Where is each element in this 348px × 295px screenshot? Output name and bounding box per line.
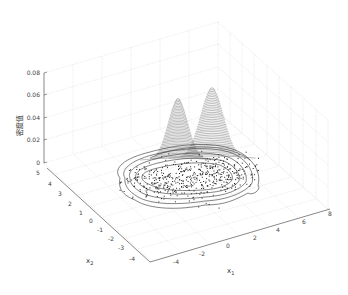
x1-tick-label: 8 <box>328 210 332 217</box>
x2-tick-label: 3 <box>58 190 62 197</box>
x2-tick-label: 2 <box>68 200 72 207</box>
z-tick-label: 0.06 <box>27 91 41 98</box>
z-tick-label: 0.04 <box>27 114 41 121</box>
sample-points <box>120 151 259 209</box>
x1-tick-label: 6 <box>302 218 306 225</box>
x2-tick-label: -3 <box>118 244 124 251</box>
z-tick-label: 0.02 <box>27 136 41 143</box>
x1-tick-label: 2 <box>253 234 257 241</box>
x1-tick-label: 4 <box>276 226 280 233</box>
x1-axis-line <box>150 209 330 262</box>
x2-tick-label: 5 <box>36 169 40 176</box>
x2-tick-label: 1 <box>79 209 83 216</box>
x1-tick-label: -2 <box>199 250 205 257</box>
x2-tick-label: -1 <box>97 226 103 233</box>
x2-tick-label: -2 <box>108 235 114 242</box>
x2-axis-label: x2 <box>86 257 93 266</box>
density-surface <box>140 88 255 160</box>
x1-axis-label: x1 <box>227 267 234 276</box>
x1-tick-label: -4 <box>173 258 179 265</box>
x1-tick-label: 0 <box>226 242 230 249</box>
chart-root: 0.08 0.06 0.04 0.02 0 密度值 5 4 3 2 1 0 -1… <box>0 0 348 295</box>
z-tick-label: 0 <box>36 159 40 166</box>
grid <box>44 22 328 260</box>
x2-axis-line <box>47 168 150 262</box>
x2-tick-label: 4 <box>48 180 52 187</box>
z-axis-label: 密度值 <box>15 115 24 136</box>
surface-plot: 0.08 0.06 0.04 0.02 0 密度值 5 4 3 2 1 0 -1… <box>0 0 348 295</box>
x2-tick-label: 0 <box>89 217 93 224</box>
z-tick-label: 0.08 <box>27 69 41 76</box>
x2-tick-label: -4 <box>129 255 135 262</box>
